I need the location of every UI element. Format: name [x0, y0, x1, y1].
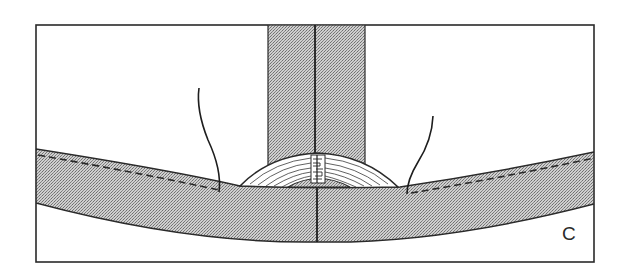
panel-label: C [562, 224, 576, 243]
diagram-canvas [0, 0, 620, 277]
joint-block [311, 155, 325, 183]
diagram-figure: C [0, 0, 620, 277]
